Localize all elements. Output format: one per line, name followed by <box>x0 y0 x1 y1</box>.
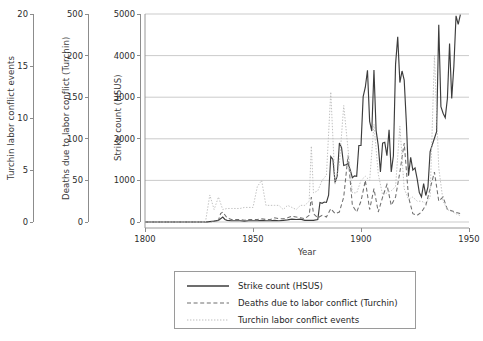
x-tick-label: 1950 <box>449 234 483 244</box>
legend-key-dashed <box>185 298 231 308</box>
legend-key-dotted <box>185 315 231 325</box>
legend-key-solid <box>185 281 231 291</box>
x-axis-label: Year <box>145 247 469 257</box>
legend-label: Turchin labor conflict events <box>238 315 359 325</box>
legend-item: Deaths due to labor conflict (Turchin) <box>185 297 398 309</box>
legend-item: Turchin labor conflict events <box>185 314 359 326</box>
x-tick-mark <box>145 228 146 232</box>
x-tick-label: 1800 <box>125 234 165 244</box>
x-tick-mark <box>361 228 362 232</box>
legend-label: Strike count (HSUS) <box>238 281 323 291</box>
x-tick-label: 1900 <box>341 234 381 244</box>
chart-legend: Strike count (HSUS)Deaths due to labor c… <box>174 271 416 329</box>
chart-figure: Turchin labor conflict events 05101520 D… <box>0 0 483 341</box>
series-deaths_labor_conflict <box>145 143 460 222</box>
x-tick-mark <box>469 228 470 232</box>
x-tick-mark <box>253 228 254 232</box>
x-tick-label: 1850 <box>233 234 273 244</box>
legend-label: Deaths due to labor conflict (Turchin) <box>238 298 398 308</box>
legend-item: Strike count (HSUS) <box>185 280 323 292</box>
series-strike_count <box>145 15 460 222</box>
